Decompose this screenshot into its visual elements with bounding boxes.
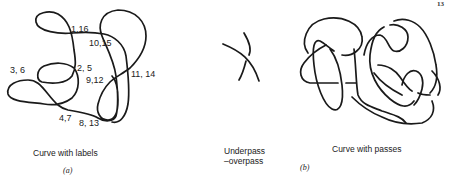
crossing-label: 2, 5 [77,63,92,73]
crossing-label: 8, 13 [79,118,99,128]
caption-curve-with-passes: Curve with passes [332,144,401,154]
underpass-overpass-diagram [200,25,270,90]
crossing-label: 4,7 [59,113,72,123]
figure: 13 1,16 10,15 3, 6 2, 5 9,12 11, 14 4,7 … [0,0,453,181]
crossing-label: 1,16 [71,24,89,34]
caption-underpass: Underpass [224,146,265,156]
sublabel-a: (a) [63,166,72,175]
crossing-label: 11, 14 [131,69,155,79]
caption-curve-with-labels: Curve with labels [33,148,98,158]
crossing-label: 9,12 [86,75,104,85]
crossing-label: 3, 6 [10,65,25,75]
caption-overpass: –overpass [224,156,263,166]
sublabel-b: (b) [300,163,309,172]
page-number: 13 [437,0,444,8]
crossing-label: 10,15 [89,38,112,48]
knot-with-passes-diagram [290,15,453,135]
